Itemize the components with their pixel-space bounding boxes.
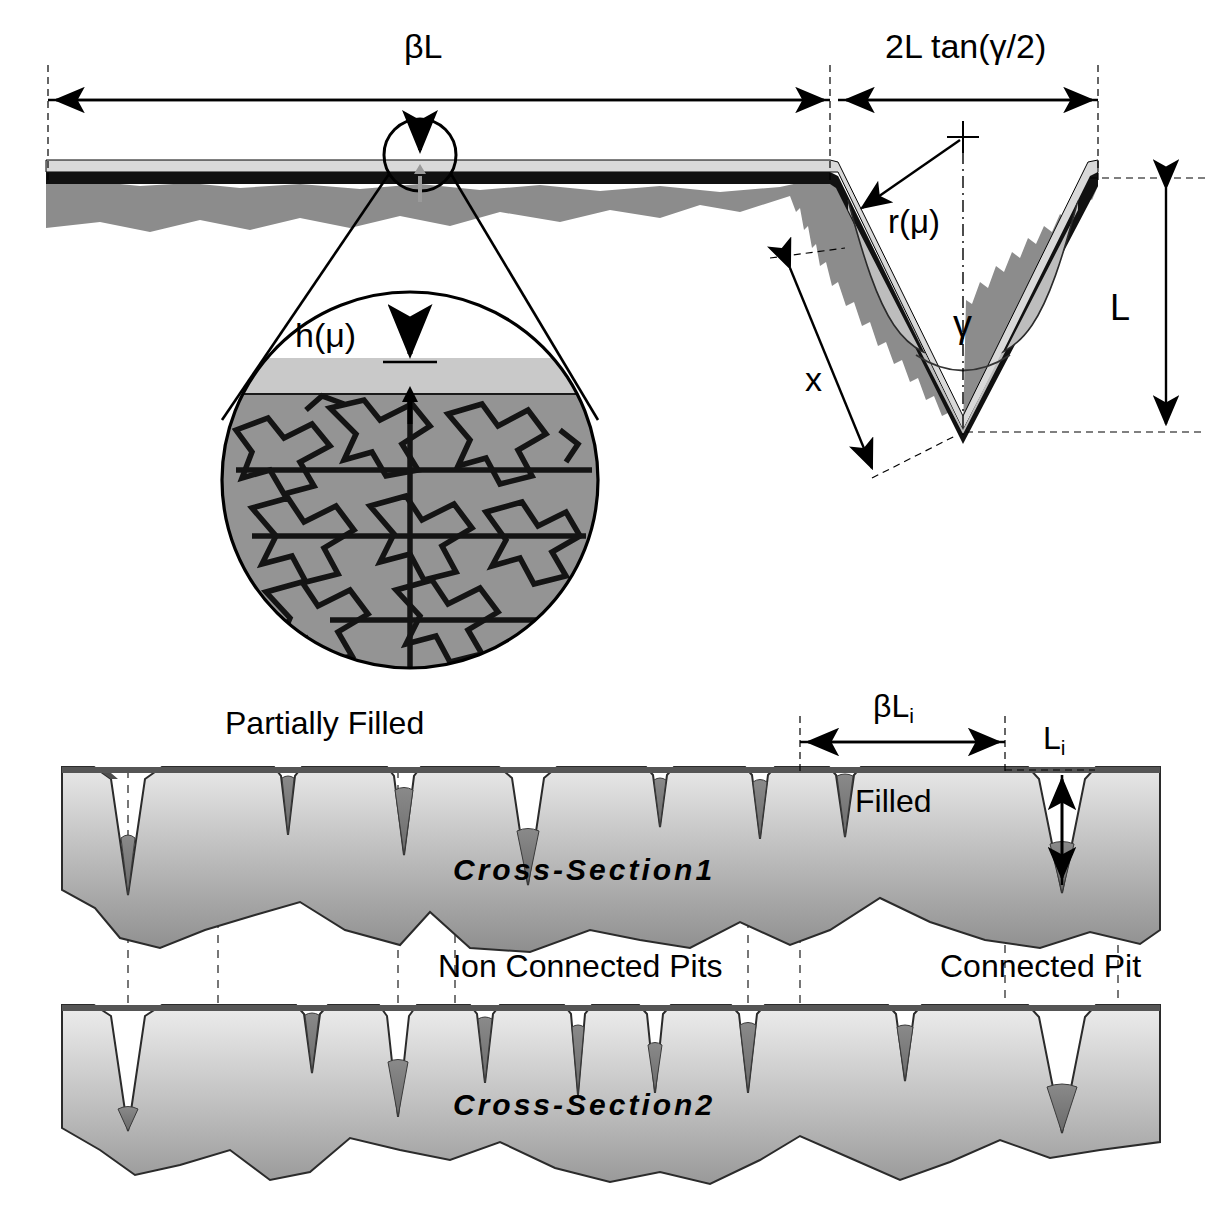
diagram-svg	[0, 0, 1223, 1228]
label-connected-pit: Connected Pit	[940, 950, 1141, 982]
label-filled: Filled	[855, 785, 931, 817]
label-cross-section-2: Cross-Section2	[453, 1090, 715, 1120]
beta-Li-base: βL	[873, 688, 909, 724]
Li-base: L	[1043, 720, 1061, 756]
label-partially-filled: Partially Filled	[225, 707, 424, 739]
radius-arrow	[862, 140, 960, 208]
label-slope-x: x	[805, 362, 822, 396]
grain-boundaries	[228, 396, 592, 676]
x-bottom-extension	[872, 436, 955, 478]
magnified-inset	[222, 292, 598, 676]
label-non-connected-pits: Non Connected Pits	[438, 950, 723, 982]
label-h-mu: h(μ)	[295, 318, 356, 352]
label-beta-Li: βLi	[873, 690, 914, 726]
label-Li: Li	[1043, 722, 1066, 758]
label-gamma: γ	[953, 305, 972, 343]
label-cross-section-1: Cross-Section1	[453, 855, 715, 885]
label-depth-L: L	[1110, 290, 1130, 326]
beta-Li-subscript: i	[909, 704, 914, 727]
figure-canvas: βL 2L tan(γ/2) r(μ) γ L x h(μ) Partially…	[0, 0, 1223, 1228]
label-r-mu: r(μ)	[888, 205, 940, 238]
cs1-surface-rim	[62, 767, 1160, 773]
Li-subscript: i	[1061, 736, 1066, 759]
cs2-surface-rim	[62, 1005, 1160, 1011]
label-beta-L: βL	[404, 29, 442, 63]
label-2L-tan-gamma: 2L tan(γ/2)	[885, 29, 1046, 63]
